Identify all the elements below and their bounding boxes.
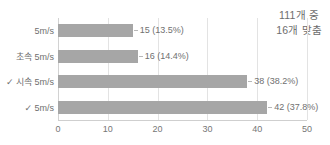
- bar-value-label: 15 (13.5%): [140, 23, 184, 37]
- bar[interactable]: [58, 101, 267, 114]
- bar-chart: 111개 중 16개 맞춤 15 (13.5%)16 (14.4%)38 (38…: [0, 0, 330, 145]
- bar-value-label: 42 (37.8%): [274, 100, 318, 114]
- x-tick-label: 50: [302, 124, 312, 134]
- bar-row[interactable]: 15 (13.5%): [58, 18, 307, 44]
- bar[interactable]: [58, 24, 133, 37]
- plot-area: 15 (13.5%)16 (14.4%)38 (38.2%)42 (37.8%): [58, 18, 307, 120]
- x-tick-label: 40: [252, 124, 262, 134]
- category-label: 5m/s: [0, 24, 54, 38]
- category-label: 초속 5m/s: [0, 50, 54, 64]
- x-tick-label: 30: [202, 124, 212, 134]
- category-label: ✓ 시속 5m/s: [0, 75, 54, 89]
- bar-label-connector: [139, 56, 143, 57]
- bar-value-label: 16 (14.4%): [145, 49, 189, 63]
- bar-row[interactable]: 42 (37.8%): [58, 95, 307, 121]
- bar-label-connector: [134, 30, 138, 31]
- bar-label-connector: [268, 107, 272, 108]
- bar[interactable]: [58, 75, 247, 88]
- bar-row[interactable]: 38 (38.2%): [58, 69, 307, 95]
- bar-value-label: 38 (38.2%): [254, 74, 298, 88]
- bar-row[interactable]: 16 (14.4%): [58, 44, 307, 70]
- x-tick-label: 20: [153, 124, 163, 134]
- x-axis-line: [58, 120, 307, 121]
- x-tick-label: 0: [55, 124, 60, 134]
- category-label: ✓ 5m/s: [0, 101, 54, 115]
- x-tick-label: 10: [103, 124, 113, 134]
- bar[interactable]: [58, 50, 138, 63]
- bar-label-connector: [248, 81, 252, 82]
